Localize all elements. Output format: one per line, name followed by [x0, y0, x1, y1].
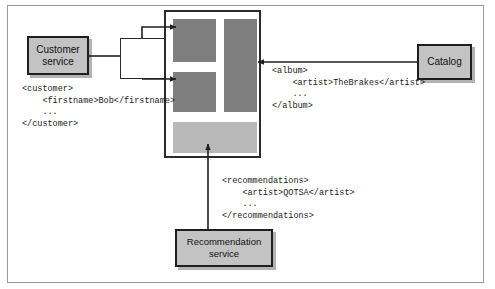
- customer-xml-snippet: <customer> <firstname>Bob</firstname> ..…: [22, 84, 175, 130]
- aggregating-application-panel: [164, 10, 261, 158]
- diagram-figure: Customer service Catalog Recommendation …: [0, 0, 495, 289]
- panel-block-mid-left: [173, 72, 216, 112]
- panel-block-right-tall: [224, 19, 257, 112]
- recommendation-service-box[interactable]: Recommendation service: [175, 229, 273, 267]
- recommendations-xml-snippet: <recommendations> <artist>QOTSA</artist>…: [222, 176, 355, 222]
- splitter-box: [120, 38, 165, 79]
- customer-service-label-line2: service: [36, 56, 79, 68]
- catalog-service-label: Catalog: [427, 56, 461, 68]
- catalog-service-box[interactable]: Catalog: [417, 44, 472, 80]
- album-xml-snippet: <album> <artist>TheBrakes</artist> ... <…: [272, 66, 425, 112]
- panel-block-top-left: [173, 19, 216, 62]
- recommendation-service-label-line2: service: [187, 248, 261, 260]
- recommendation-service-label-line1: Recommendation: [187, 236, 261, 248]
- panel-block-bottom-wide: [173, 122, 257, 153]
- customer-service-label-line1: Customer: [36, 44, 79, 56]
- customer-service-box[interactable]: Customer service: [27, 36, 89, 75]
